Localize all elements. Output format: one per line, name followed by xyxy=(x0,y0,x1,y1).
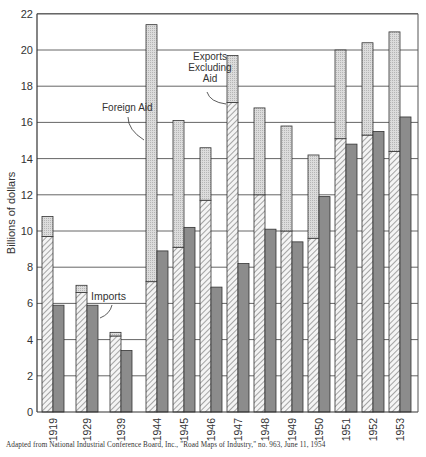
bar-exports-excluding-aid xyxy=(200,200,211,412)
x-tick-label: 1929 xyxy=(81,418,93,442)
x-tick-label: 1947 xyxy=(232,418,244,442)
y-tick-label: 2 xyxy=(27,370,33,382)
x-tick-label: 1949 xyxy=(286,418,298,442)
bar-group-1946 xyxy=(200,148,222,412)
bar-group-1944 xyxy=(146,25,168,412)
bar-exports-excluding-aid xyxy=(76,293,87,412)
bar-imports xyxy=(87,305,98,412)
bar-exports-excluding-aid xyxy=(227,102,238,412)
bar-group-1949 xyxy=(281,126,303,412)
y-tick-label: 22 xyxy=(21,8,33,20)
annotation-arrow xyxy=(207,92,226,104)
bar-foreign-aid xyxy=(308,155,319,238)
bar-group-1947 xyxy=(227,55,249,412)
y-tick-label: 10 xyxy=(21,225,33,237)
bar-foreign-aid xyxy=(254,108,265,195)
bar-group-1951 xyxy=(335,50,357,412)
x-tick-label: 1939 xyxy=(115,418,127,442)
x-tick-label: 1951 xyxy=(340,418,352,442)
x-tick-label: 1950 xyxy=(313,418,325,442)
bar-group-1939 xyxy=(110,332,132,412)
bar-imports xyxy=(211,287,222,412)
x-tick-label: 1952 xyxy=(367,418,379,442)
annotation-arrow xyxy=(128,117,144,140)
x-tick-label: 1953 xyxy=(394,418,406,442)
bar-group-1945 xyxy=(173,121,195,412)
bar-imports xyxy=(319,197,330,412)
annotation-exports-excluding-aid: Excluding xyxy=(188,62,231,73)
bar-imports xyxy=(373,131,384,412)
bar-exports-excluding-aid xyxy=(335,139,346,412)
y-tick-label: 18 xyxy=(21,80,33,92)
bar-foreign-aid xyxy=(110,332,121,336)
y-tick-label: 12 xyxy=(21,189,33,201)
bar-exports-excluding-aid xyxy=(362,135,373,412)
annotation-foreign-aid: Foreign Aid xyxy=(102,102,153,113)
x-tick-label: 1948 xyxy=(259,418,271,442)
source-note: Adapted from National Industrial Confere… xyxy=(6,441,325,449)
bar-imports xyxy=(157,251,168,412)
x-tick-label: 1946 xyxy=(205,418,217,442)
bar-foreign-aid xyxy=(173,121,184,248)
bar-foreign-aid xyxy=(335,50,346,139)
annotation-exports-excluding-aid: Aid xyxy=(203,73,217,84)
bar-foreign-aid xyxy=(281,126,292,231)
x-tick-label: 1945 xyxy=(178,418,190,442)
bar-foreign-aid xyxy=(146,25,157,282)
bar-exports-excluding-aid xyxy=(173,247,184,412)
bar-foreign-aid xyxy=(362,43,373,135)
bar-foreign-aid xyxy=(389,32,400,151)
bar-imports xyxy=(265,229,276,412)
annotation-imports: Imports xyxy=(91,290,126,302)
bar-group-1952 xyxy=(362,43,384,412)
bar-group-1929 xyxy=(76,285,98,412)
bar-imports xyxy=(400,117,411,412)
y-tick-label: 14 xyxy=(21,153,33,165)
y-tick-label: 4 xyxy=(27,334,33,346)
y-tick-label: 16 xyxy=(21,116,33,128)
bar-group-1948 xyxy=(254,108,276,412)
x-tick-label: 1944 xyxy=(151,418,163,442)
bar-foreign-aid xyxy=(42,217,53,237)
bar-group-1919 xyxy=(42,217,64,412)
trade-bar-chart: 0246810121416182022191919291939194419451… xyxy=(0,0,426,457)
bars xyxy=(42,25,411,412)
bar-exports-excluding-aid xyxy=(281,231,292,412)
bar-imports xyxy=(292,242,303,412)
bar-imports xyxy=(53,305,64,412)
bar-exports-excluding-aid xyxy=(389,151,400,412)
x-tick-label: 1919 xyxy=(47,418,59,442)
bar-exports-excluding-aid xyxy=(308,238,319,412)
bar-exports-excluding-aid xyxy=(254,195,265,412)
bar-exports-excluding-aid xyxy=(42,236,53,412)
bar-foreign-aid xyxy=(200,148,211,200)
bar-exports-excluding-aid xyxy=(110,336,121,412)
bar-imports xyxy=(184,227,195,412)
bar-exports-excluding-aid xyxy=(146,282,157,412)
bar-foreign-aid xyxy=(76,285,87,292)
y-axis-title: Billions of dollars xyxy=(5,171,17,254)
y-tick-label: 6 xyxy=(27,297,33,309)
annotation-exports-excluding-aid: Exports xyxy=(193,51,227,62)
annotation-arrow xyxy=(100,305,112,318)
bar-imports xyxy=(238,264,249,412)
bar-imports xyxy=(346,144,357,412)
bar-group-1953 xyxy=(389,32,411,412)
y-tick-label: 8 xyxy=(27,261,33,273)
y-tick-label: 20 xyxy=(21,44,33,56)
bar-imports xyxy=(121,350,132,412)
bar-group-1950 xyxy=(308,155,330,412)
y-tick-label: 0 xyxy=(27,406,33,418)
